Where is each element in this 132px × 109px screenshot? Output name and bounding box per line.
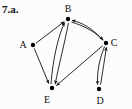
node-label-a: A xyxy=(19,39,27,50)
directed-graph-diagram: A B C D E xyxy=(0,0,132,109)
edge-b-to-c xyxy=(71,22,103,40)
edge-b-to-e xyxy=(55,23,68,84)
edge-a-to-e xyxy=(34,48,49,83)
node-label-e: E xyxy=(44,94,50,105)
node-label-c: C xyxy=(111,37,118,48)
node-c-dot xyxy=(104,41,108,45)
node-a-dot xyxy=(31,43,35,47)
figure-container: 7.a. A B C xyxy=(0,0,132,109)
edge-a-to-b xyxy=(36,22,64,44)
node-d-dot xyxy=(97,87,101,91)
node-e-dot xyxy=(50,86,54,90)
node-label-b: B xyxy=(65,3,72,14)
edge-c-to-e xyxy=(56,46,102,86)
node-label-d: D xyxy=(96,95,103,106)
edge-e-to-b xyxy=(51,23,65,84)
node-b-dot xyxy=(66,17,70,21)
edge-d-to-c xyxy=(101,47,107,85)
